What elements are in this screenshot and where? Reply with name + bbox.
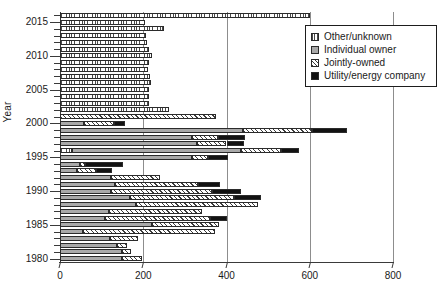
x-tick-800 [392, 262, 394, 268]
bar-segment-joint-1999 [243, 128, 312, 133]
bar-row-1998 [60, 135, 393, 140]
bar-segment-joint-1990 [111, 189, 212, 194]
legend-item-other[interactable]: Other/unknown [311, 30, 431, 43]
y-tick-label-2005: 2005 [10, 84, 48, 95]
y-tick-label-1980: 1980 [10, 253, 48, 264]
bar-segment-individual-1996 [72, 148, 241, 153]
bar-segment-joint-1980 [122, 256, 142, 261]
bar-row-1993 [60, 168, 393, 173]
bar-segment-utility-1998 [218, 135, 245, 140]
bar-segment-joint-1995 [192, 155, 208, 160]
bar-segment-joint-1983 [110, 236, 138, 241]
x-tick-label-800: 800 [373, 270, 413, 281]
bar-row-2002 [60, 107, 393, 112]
x-tick-0 [59, 262, 61, 268]
bar-segment-individual-1982 [60, 243, 117, 248]
bar-row-1981 [60, 249, 393, 254]
bar-segment-other-2004 [60, 94, 149, 99]
bar-segment-joint-1988 [136, 202, 258, 207]
x-tick-label-400: 400 [207, 270, 247, 281]
bar-segment-individual-1999 [60, 128, 243, 133]
bar-segment-other-2010 [60, 53, 152, 58]
bar-row-1980 [60, 256, 393, 261]
legend-label-other: Other/unknown [324, 31, 392, 42]
bar-segment-individual-1986 [60, 216, 105, 221]
bar-segment-joint-1989 [130, 195, 234, 200]
bar-segment-utility-1986 [210, 216, 227, 221]
bar-row-1999 [60, 128, 393, 133]
bar-segment-joint-1997 [197, 141, 226, 146]
legend-item-joint[interactable]: Jointly-owned [311, 56, 431, 69]
bar-segment-utility-2000 [114, 121, 125, 126]
y-tick-label-2010: 2010 [10, 50, 48, 61]
bar-segment-individual-1994 [60, 162, 80, 167]
bar-row-1992 [60, 175, 393, 180]
bar-segment-joint-1996 [241, 148, 281, 153]
bar-row-1984 [60, 229, 393, 234]
legend-label-individual: Individual owner [324, 44, 396, 55]
bar-segment-individual-1980 [60, 256, 122, 261]
bar-segment-utility-1993 [96, 168, 113, 173]
bar-segment-joint-1998 [192, 135, 218, 140]
bar-row-1989 [60, 195, 393, 200]
bar-segment-individual-1991 [60, 182, 115, 187]
bar-row-1994 [60, 162, 393, 167]
bar-segment-individual-1981 [60, 249, 122, 254]
bar-row-2005 [60, 87, 393, 92]
bar-segment-other-2005 [60, 87, 149, 92]
bar-segment-individual-1992 [60, 175, 111, 180]
bar-segment-individual-1993 [60, 168, 77, 173]
bar-segment-other-2007 [60, 74, 150, 79]
bar-segment-other-2003 [60, 101, 149, 106]
bar-segment-joint-2001 [60, 114, 216, 119]
bar-segment-other-2012 [60, 40, 147, 45]
bar-row-1987 [60, 209, 393, 214]
bar-row-1986 [60, 216, 393, 221]
bar-row-1985 [60, 222, 393, 227]
bar-row-1996 [60, 148, 393, 153]
bar-segment-joint-1985 [152, 222, 219, 227]
legend-item-utility[interactable]: Utility/energy company [311, 69, 431, 82]
y-tick-label-1990: 1990 [10, 185, 48, 196]
bar-segment-individual-1995 [60, 155, 192, 160]
bar-segment-joint-1987 [109, 209, 201, 214]
bar-segment-other-2016 [60, 13, 310, 18]
bar-segment-individual-1997 [60, 141, 197, 146]
bar-segment-other-2013 [60, 33, 146, 38]
bar-segment-individual-1984 [60, 229, 83, 234]
legend-label-utility: Utility/energy company [324, 70, 425, 81]
bar-row-1983 [60, 236, 393, 241]
bar-chart: Year 0200400600800 198019851990199520002… [0, 0, 442, 292]
bar-segment-other-2011 [60, 47, 149, 52]
bar-segment-joint-1984 [83, 229, 215, 234]
legend-label-joint: Jointly-owned [324, 57, 385, 68]
bar-segment-other-1996 [60, 148, 72, 153]
bar-row-2000 [60, 121, 393, 126]
bar-row-1995 [60, 155, 393, 160]
bar-row-1990 [60, 189, 393, 194]
bar-segment-utility-1989 [234, 195, 261, 200]
x-tick-label-600: 600 [290, 270, 330, 281]
bar-segment-individual-1988 [60, 202, 136, 207]
bar-row-1988 [60, 202, 393, 207]
bar-segment-utility-1995 [208, 155, 228, 160]
bar-row-1997 [60, 141, 393, 146]
bar-segment-joint-2000 [84, 121, 114, 126]
chart-legend: Other/unknownIndividual ownerJointly-own… [305, 25, 437, 87]
bar-row-2015 [60, 20, 393, 25]
legend-item-individual[interactable]: Individual owner [311, 43, 431, 56]
bar-segment-other-2015 [60, 20, 145, 25]
bar-segment-individual-2000 [60, 121, 84, 126]
bar-segment-individual-1989 [60, 195, 130, 200]
bar-row-2004 [60, 94, 393, 99]
y-tick-label-2000: 2000 [10, 117, 48, 128]
bar-segment-other-2008 [60, 67, 148, 72]
bar-segment-other-2002 [60, 107, 169, 112]
bar-segment-joint-1993 [77, 168, 95, 173]
bar-segment-individual-1987 [60, 209, 109, 214]
bar-segment-joint-1986 [105, 216, 210, 221]
x-tick-label-200: 200 [123, 270, 163, 281]
legend-swatch-other-icon [311, 33, 319, 41]
bar-segment-joint-1981 [122, 249, 131, 254]
bar-segment-utility-1997 [227, 141, 244, 146]
